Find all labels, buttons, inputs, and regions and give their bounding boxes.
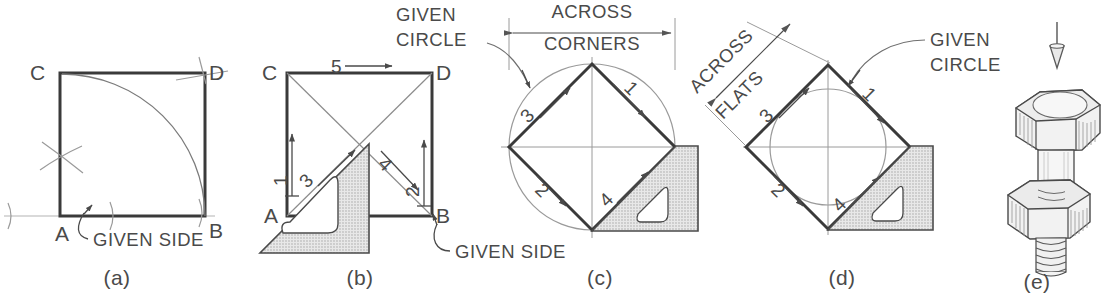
hex-nut [1008,180,1090,239]
vertex-label-d: D [436,61,452,84]
panel-caption-c: (c) [587,266,613,289]
vertex-label-b: B [436,204,451,227]
step-number-1: 1 [270,175,291,186]
given-circle-label-line2: CIRCLE [396,29,467,50]
bolt-head-hex [1016,90,1100,151]
vertex-label-c: C [30,61,46,84]
step-number-5: 5 [331,56,342,77]
vertex-label-a: A [55,222,70,245]
given-side-note: GIVEN SIDE [93,229,204,250]
technical-drawing-figure: C D A B GIVEN SIDE (a) 1 2 3 4 [0,0,1102,301]
given-circle-label-line1: GIVEN [930,29,990,50]
vertex-label-a: A [264,204,279,227]
vertex-label-c: C [262,61,278,84]
panel-caption-e: (e) [1023,270,1050,293]
vertex-label-d: D [209,61,225,84]
given-side-note: GIVEN SIDE [455,241,566,262]
panel-caption-d: (d) [828,266,855,289]
step-number-2: 2 [402,186,423,197]
panel-caption-b: (b) [346,266,373,289]
bolt-head-chamfer-ellipse [1033,92,1087,118]
panel-caption-a: (a) [103,266,130,289]
across-corners-label-line2: CORNERS [544,33,640,54]
across-corners-label-line1: ACROSS [551,1,632,22]
given-circle-label-line2: CIRCLE [930,54,1001,75]
given-circle-label-line1: GIVEN [396,4,456,25]
figure-canvas: C D A B GIVEN SIDE (a) 1 2 3 4 [0,0,1102,301]
vertex-label-b: B [209,219,224,242]
viewing-arrow-collar [1050,44,1064,48]
